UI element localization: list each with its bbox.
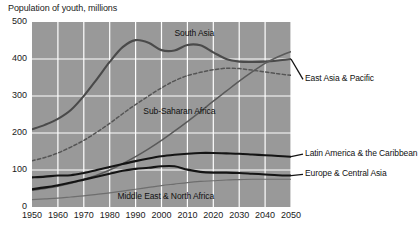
y-axis-tick-label: 500 xyxy=(3,16,27,26)
series-annotation-middle-east-north-africa: Middle East & North Africa xyxy=(117,191,214,201)
y-axis-tick-label: 300 xyxy=(3,90,27,100)
y-axis-tick-label: 200 xyxy=(3,127,27,137)
series-annotation-latin-america-the-caribbean: Latin America & the Caribbean xyxy=(305,148,417,158)
series-annotation-south-asia: South Asia xyxy=(174,28,214,38)
series-annotation-sub-saharan-africa: Sub-Saharan Africa xyxy=(143,106,215,116)
label-leader-lines xyxy=(291,59,303,176)
series-annotation-east-asia-pacific: East Asia & Pacific xyxy=(305,73,374,83)
y-axis-tick-label: 400 xyxy=(3,53,27,63)
series-annotation-europe-central-asia: Europe & Central Asia xyxy=(305,168,387,178)
x-axis-tick-label: 2050 xyxy=(275,210,307,220)
y-axis-tick-label: 100 xyxy=(3,164,27,174)
youth-population-line-chart: Population of youth, millions 0100200300… xyxy=(0,0,420,234)
